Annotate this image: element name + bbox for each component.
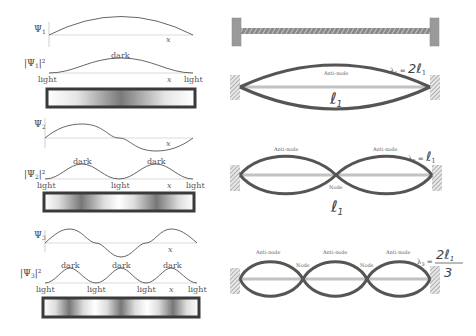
box2-density-bar: [44, 193, 194, 211]
x-axis-label: x: [169, 285, 174, 294]
string-mode-2: Anti-node Anti-node Node λ2 = ℓ1 ℓ1: [230, 146, 442, 217]
prob2-curve: [45, 164, 193, 179]
antinode-label: Anti-node: [322, 249, 348, 255]
x-axis-label: x: [166, 139, 171, 148]
rope: [241, 28, 430, 34]
psi2-label: Ψ2: [34, 119, 46, 130]
svg-text:3: 3: [444, 265, 452, 280]
psi2-curve: [45, 124, 193, 151]
dark-label: dark: [73, 157, 92, 166]
left-wall: [230, 268, 240, 294]
psi3-label: Ψ3: [34, 230, 46, 241]
length-label: ℓ1: [330, 197, 343, 217]
right-wall: [430, 266, 440, 294]
dark-label: dark: [112, 261, 131, 270]
prob1-curve: [49, 58, 193, 73]
wavelength-label: λ1 = 2ℓ1: [390, 61, 426, 77]
prob1-plot: |Ψ1|² dark light light x: [24, 51, 203, 84]
left-wall: [232, 18, 241, 46]
x-axis-label: x: [167, 181, 172, 190]
x-axis-label: x: [168, 245, 173, 254]
psi1-curve: [49, 17, 193, 36]
length-label: ℓ1: [329, 89, 342, 109]
right-wall: [432, 165, 442, 191]
box1-density-bar: [47, 89, 195, 107]
light-label: light: [38, 75, 57, 84]
string-at-rest: [232, 18, 439, 46]
box3-density-bar: [43, 298, 199, 317]
x-axis-label: x: [167, 75, 172, 84]
x-axis-label: x: [166, 35, 171, 44]
node-label: Node: [296, 262, 310, 268]
right-panel: Anti-node λ1 = 2ℓ1 ℓ1 Anti-node Anti-nod…: [230, 18, 463, 296]
light-label: light: [111, 181, 130, 190]
antinode-label: Anti-node: [372, 146, 398, 152]
prob1-label: |Ψ1|²: [24, 58, 46, 69]
light-label: light: [137, 285, 156, 294]
antinode-label: Anti-node: [273, 146, 299, 152]
dark-label: dark: [61, 261, 80, 270]
prob3-plot: |Ψ3|² dark dark dark light light light l…: [20, 261, 207, 294]
prob3-curve: [45, 268, 197, 283]
prob3-label: |Ψ3|²: [20, 268, 42, 279]
prob2-label: |Ψ2|²: [24, 169, 46, 180]
antinode-label: Anti-node: [323, 70, 349, 76]
node-label: Node: [360, 262, 374, 268]
psi1-plot: Ψ1 x: [34, 17, 193, 48]
light-label: light: [184, 75, 203, 84]
light-label: light: [87, 285, 106, 294]
node-label: Node: [329, 184, 343, 190]
dark-label: dark: [147, 157, 166, 166]
antinode-label: Anti-node: [385, 249, 411, 255]
figure-canvas: Ψ1 x |Ψ1|² dark light light x Ψ2 x |Ψ2|²: [0, 0, 476, 336]
light-label: light: [186, 181, 205, 190]
right-wall: [430, 18, 439, 46]
light-label: light: [37, 181, 56, 190]
svg-text:2ℓ1: 2ℓ1: [436, 247, 454, 263]
light-label: light: [36, 285, 55, 294]
prob2-plot: |Ψ2|² dark dark light light light x: [24, 157, 205, 190]
left-wall: [230, 165, 240, 191]
right-wall: [430, 75, 440, 100]
dark-label: dark: [111, 51, 130, 60]
string-mode-3: Anti-node Anti-node Anti-node Node Node …: [230, 247, 463, 296]
left-wall: [230, 75, 240, 100]
psi3-plot: Ψ3 x: [34, 229, 197, 257]
psi2-plot: Ψ2 x: [34, 118, 193, 151]
svg-text:λ3 =: λ3 =: [417, 258, 433, 267]
light-label: light: [188, 285, 207, 294]
dark-label: dark: [163, 261, 182, 270]
string-mode-1: Anti-node λ1 = 2ℓ1 ℓ1: [230, 61, 440, 109]
antinode-label: Anti-node: [255, 249, 281, 255]
wavelength-label: λ2 = ℓ1: [408, 149, 436, 165]
left-panel: Ψ1 x |Ψ1|² dark light light x Ψ2 x |Ψ2|²: [20, 17, 207, 318]
psi1-label: Ψ1: [34, 24, 46, 35]
